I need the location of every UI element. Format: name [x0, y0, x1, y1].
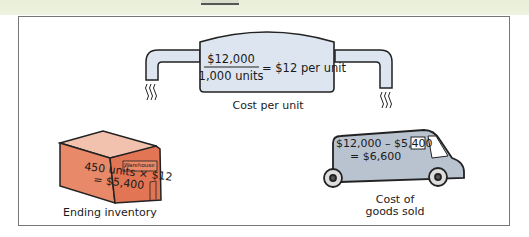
tank-numerator: $12,000	[207, 53, 255, 66]
left-drip-icon	[146, 84, 157, 100]
truck-line1: $12,000 – $5,400	[336, 138, 432, 150]
warehouse-sign: Warehouse	[124, 162, 155, 168]
tank-denominator: 1,000 units	[199, 70, 264, 83]
truck-line2: = $6,600	[350, 151, 401, 163]
right-drip-icon	[381, 92, 392, 108]
tank-caption: Cost per unit	[232, 100, 303, 112]
warehouse-caption: Ending inventory	[63, 207, 157, 219]
truck-caption-line2: goods sold	[365, 206, 424, 218]
tank-result: = $12 per unit	[262, 62, 346, 75]
left-pipe	[146, 50, 200, 80]
diagram-canvas	[0, 0, 529, 237]
